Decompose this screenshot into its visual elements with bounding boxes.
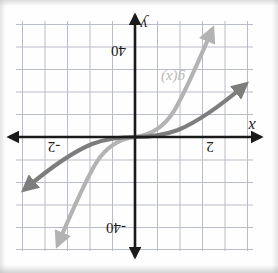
coordinate-plane-svg: 2 -2 -40 40 x y g(x) <box>0 0 278 273</box>
y-tick-label-bottom: 40 <box>111 43 126 59</box>
x-axis-label: x <box>248 118 256 135</box>
rotated-plot-container: 2 -2 -40 40 x y g(x) <box>0 0 278 273</box>
graph-figure: 2 -2 -40 40 x y g(x) <box>0 0 278 273</box>
y-tick-label-top: -40 <box>106 220 126 236</box>
curve-label-g-of-x: g(x) <box>161 69 185 86</box>
x-tick-label-left: 2 <box>206 139 214 155</box>
x-tick-label-right: -2 <box>48 139 61 155</box>
